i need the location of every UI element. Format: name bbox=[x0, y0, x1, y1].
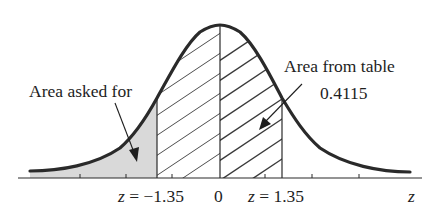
shaded-tail-region bbox=[30, 98, 157, 178]
tick-var: z bbox=[247, 186, 255, 206]
label-area-asked-for: Area asked for bbox=[29, 81, 132, 101]
tick-label-zero: 0 bbox=[214, 186, 223, 206]
label-area-value: 0.4115 bbox=[320, 83, 368, 103]
arrow-area-from-table bbox=[259, 84, 302, 130]
tick-val: 1.35 bbox=[273, 186, 304, 206]
tick-eq: = bbox=[255, 186, 274, 206]
axis-label-z: z bbox=[407, 186, 415, 206]
tick-var: z bbox=[117, 186, 125, 206]
hatch-left-region bbox=[150, 20, 240, 200]
label-area-from-table: Area from table bbox=[284, 56, 395, 76]
tick-label-neg135: z = −1.35 bbox=[117, 186, 184, 206]
normal-curve-diagram: Area asked for Area from table 0.4115 z … bbox=[0, 0, 447, 217]
tick-label-pos135: z = 1.35 bbox=[247, 186, 304, 206]
tick-val: −1.35 bbox=[143, 186, 184, 206]
tick-eq: = bbox=[125, 186, 144, 206]
